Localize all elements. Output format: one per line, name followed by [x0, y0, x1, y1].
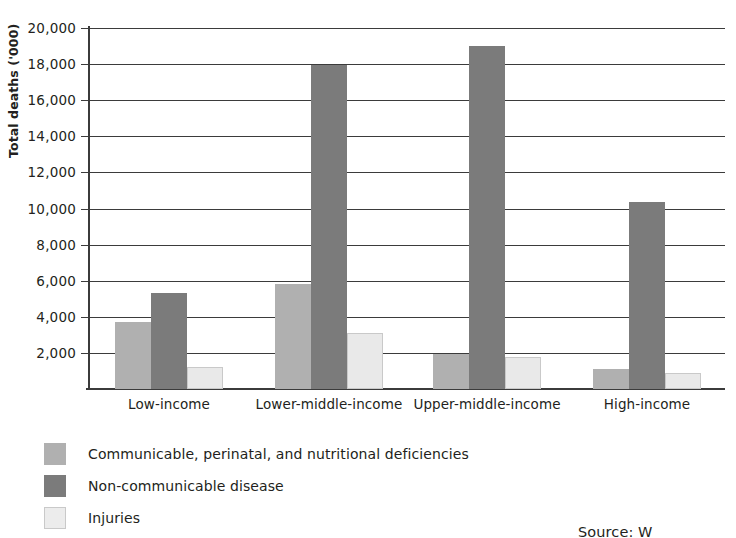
bar [115, 322, 151, 389]
gridline [88, 28, 725, 29]
y-tick-label: 16,000 [28, 92, 76, 108]
gridline [88, 64, 725, 65]
legend-label-communicable: Communicable, perinatal, and nutritional… [88, 446, 469, 462]
bar [665, 373, 701, 389]
bar [433, 354, 469, 389]
tick-mark [81, 100, 89, 101]
legend-item: Non-communicable disease [44, 470, 469, 502]
source-note: Source: W [578, 524, 653, 538]
bar [505, 357, 541, 389]
y-tick-label: 18,000 [28, 56, 76, 72]
y-axis-line [88, 26, 90, 389]
legend-swatch-injuries [44, 507, 66, 529]
tick-mark [81, 209, 89, 210]
x-axis-label: Low-income [128, 396, 210, 412]
bar [151, 293, 187, 389]
y-tick-label: 14,000 [28, 128, 76, 144]
chart-legend: Communicable, perinatal, and nutritional… [44, 438, 469, 534]
y-tick-label: 6,000 [36, 273, 76, 289]
y-tick-label: 12,000 [28, 164, 76, 180]
legend-label-injuries: Injuries [88, 510, 140, 526]
legend-swatch-non-communicable [44, 475, 66, 497]
x-axis-label: High-income [604, 396, 690, 412]
legend-item: Injuries [44, 502, 469, 534]
bar [629, 202, 665, 389]
legend-swatch-communicable [44, 443, 66, 465]
y-tick-label: 20,000 [28, 20, 76, 36]
tick-mark [81, 172, 89, 173]
tick-mark [81, 136, 89, 137]
y-tick-label: 2,000 [36, 345, 76, 361]
x-axis-label: Upper-middle-income [413, 396, 560, 412]
tick-mark [81, 64, 89, 65]
gridline [88, 100, 725, 101]
x-axis-label: Lower-middle-income [256, 396, 403, 412]
bar [275, 284, 311, 389]
y-tick-label: 4,000 [36, 309, 76, 325]
bar [187, 367, 223, 389]
tick-mark [81, 317, 89, 318]
gridline [88, 172, 725, 173]
legend-label-non-communicable: Non-communicable disease [88, 478, 284, 494]
bar [347, 333, 383, 389]
y-tick-label: 8,000 [36, 237, 76, 253]
tick-mark [81, 281, 89, 282]
gridline [88, 136, 725, 137]
tick-mark [81, 353, 89, 354]
bar [311, 65, 347, 389]
plot-area: 2,0004,0006,0008,00010,00012,00014,00016… [88, 28, 725, 389]
bar [593, 369, 629, 389]
y-axis-title: Total deaths ('000) [6, 0, 21, 158]
y-tick-label: 10,000 [28, 201, 76, 217]
legend-item: Communicable, perinatal, and nutritional… [44, 438, 469, 470]
tick-mark [81, 245, 89, 246]
bar [469, 46, 505, 389]
chart-figure: Total deaths ('000) 2,0004,0006,0008,000… [0, 0, 736, 538]
tick-mark [81, 28, 89, 29]
